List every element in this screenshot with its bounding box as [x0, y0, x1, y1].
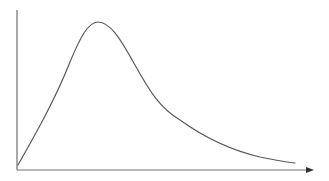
- skewed-curve-chart: [0, 0, 329, 181]
- x-axis-arrow-icon: [306, 167, 314, 173]
- data-curve: [18, 22, 295, 165]
